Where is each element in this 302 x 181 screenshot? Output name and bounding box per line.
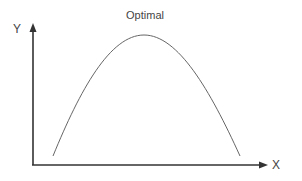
optimal-curve (53, 35, 240, 156)
y-axis (30, 23, 37, 165)
x-axis-arrowhead-icon (259, 162, 268, 169)
diagram-canvas (0, 0, 302, 181)
y-axis-arrowhead-icon (30, 23, 37, 32)
x-axis (32, 162, 268, 169)
